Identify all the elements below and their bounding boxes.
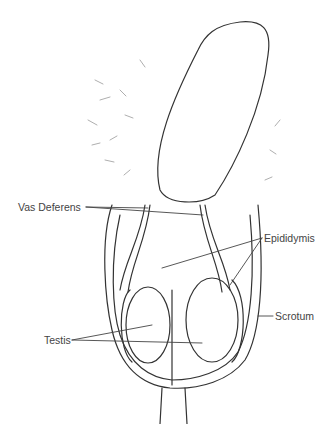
lower-stalk	[160, 388, 187, 424]
vas-deferens-lines	[120, 205, 230, 292]
label-testis: Testis	[44, 334, 71, 346]
testis-right	[186, 278, 238, 362]
scrotum-outline	[105, 205, 261, 388]
testis-left	[126, 287, 170, 363]
label-vas-deferens: Vas Deferens	[18, 201, 81, 213]
label-epididymis: Epididymis	[264, 232, 315, 244]
upper-outline	[158, 22, 269, 202]
label-scrotum: Scrotum	[275, 310, 314, 322]
epididymis-shapes	[121, 280, 243, 362]
